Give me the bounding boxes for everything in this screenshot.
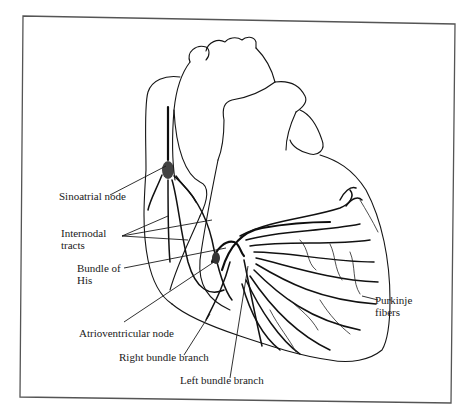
- leader-left-bundle: [230, 266, 248, 378]
- leader-av-node: [124, 262, 214, 322]
- label-bundle-of-his-1: Bundle of: [77, 262, 121, 274]
- diagram-figure: Sinoatrial node Internodal tracts Bundle…: [0, 0, 464, 419]
- leader-right-bundle: [184, 314, 210, 355]
- heart-illustration: [0, 0, 464, 419]
- purkinje-network: [240, 188, 378, 354]
- label-internodal-tracts-2: tracts: [61, 239, 85, 251]
- figure-border: [20, 16, 455, 403]
- label-purkinje-fibers-2: fibers: [375, 306, 400, 318]
- label-internodal-tracts-1: Internodal: [61, 227, 106, 239]
- leader-bundle-of-his: [124, 248, 226, 268]
- label-purkinje-fibers-1: Purkinje: [375, 294, 412, 306]
- sinoatrial-node-mass: [162, 161, 174, 179]
- leader-internodal-2: [122, 220, 212, 236]
- label-sinoatrial-node: Sinoatrial node: [59, 190, 126, 202]
- leader-internodal-3: [122, 236, 188, 240]
- label-right-bundle-branch: Right bundle branch: [119, 351, 209, 363]
- label-bundle-of-his-2: His: [77, 274, 92, 286]
- label-atrioventricular-node: Atrioventricular node: [79, 327, 174, 339]
- label-left-bundle-branch: Left bundle branch: [180, 374, 264, 386]
